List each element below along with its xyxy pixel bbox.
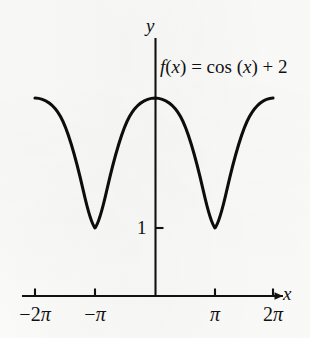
x-axis-arrowhead: [275, 292, 284, 300]
cosine-curve: [35, 98, 273, 228]
y-axis-label: y: [146, 16, 154, 35]
equation-lhs-var: x: [172, 56, 180, 77]
y-tick-label-1: 1: [137, 218, 147, 237]
equation-constant: 2: [278, 56, 288, 77]
equation-equals: =: [191, 56, 202, 77]
cosine-graph-figure: y x f(x) = cos (x) + 2 1 −2π −π π 2π: [0, 0, 310, 338]
equation-operator: cos: [207, 56, 232, 77]
plot-canvas: [0, 0, 310, 338]
equation-lhs-close: ): [180, 56, 186, 77]
x-tick-label-2pi: 2π: [263, 303, 283, 326]
x-tick-label-minus-2pi: −2π: [19, 303, 50, 326]
x-tick-label-pi: π: [210, 303, 220, 326]
x-axis-label: x: [283, 284, 291, 303]
equation-arg-close: ): [251, 56, 257, 77]
x-tick-label-minus-pi: −π: [84, 303, 105, 326]
function-equation-label: f(x) = cos (x) + 2: [160, 57, 287, 76]
equation-plus: +: [263, 56, 274, 77]
